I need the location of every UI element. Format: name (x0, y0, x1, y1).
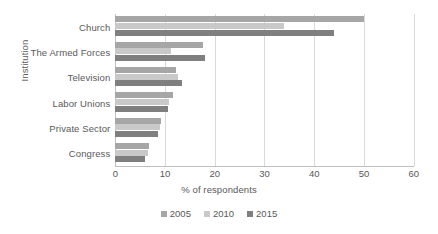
x-axis-ticks: 0102030405060 (115, 168, 413, 182)
y-axis-tick-label: The Armed Forces (31, 46, 111, 57)
bar-2005 (115, 118, 161, 124)
x-axis-tick-label: 50 (359, 168, 370, 179)
gridline-60 (414, 14, 415, 166)
x-axis-title: % of respondents (0, 184, 438, 195)
bar-chart: Institution ChurchThe Armed ForcesTelevi… (0, 0, 438, 234)
bar-2005 (115, 143, 149, 149)
bar-group (115, 42, 413, 63)
bar-2015 (115, 106, 167, 112)
bar-2015 (115, 30, 334, 36)
category-row: Congress (115, 141, 413, 166)
x-axis-tick-label: 30 (259, 168, 270, 179)
category-row: Television (115, 65, 413, 90)
bar-2005 (115, 92, 173, 98)
legend: 200520102015 (0, 208, 438, 219)
bar-2010 (115, 99, 168, 105)
bar-2015 (115, 131, 157, 137)
x-axis-tick-label: 20 (209, 168, 220, 179)
bar-2010 (115, 74, 178, 80)
bar-2005 (115, 42, 203, 48)
legend-swatch-icon (204, 211, 210, 217)
x-axis-tick-label: 40 (309, 168, 320, 179)
category-rows: ChurchThe Armed ForcesTelevisionLabor Un… (115, 14, 413, 166)
bar-group (115, 92, 413, 113)
x-axis-line (115, 166, 414, 167)
y-axis-tick-label: Congress (69, 148, 110, 159)
category-row: The Armed Forces (115, 39, 413, 64)
bar-2010 (115, 150, 147, 156)
legend-item-2015[interactable]: 2015 (247, 208, 277, 219)
legend-label: 2015 (256, 208, 277, 219)
x-axis-tick-label: 10 (160, 168, 171, 179)
bar-2010 (115, 124, 159, 130)
category-row: Private Sector (115, 115, 413, 140)
x-axis-tick-label: 0 (113, 168, 118, 179)
y-axis-tick-label: Church (79, 21, 110, 32)
bar-group (115, 16, 413, 37)
bar-2015 (115, 80, 182, 86)
bar-2015 (115, 55, 205, 61)
legend-item-2005[interactable]: 2005 (161, 208, 191, 219)
y-axis-tick-label: Private Sector (49, 122, 110, 133)
legend-item-2010[interactable]: 2010 (204, 208, 234, 219)
y-axis-tick-label: Television (68, 72, 111, 83)
category-row: Church (115, 14, 413, 39)
x-axis-tick-label: 60 (408, 168, 419, 179)
legend-swatch-icon (247, 211, 253, 217)
bar-2015 (115, 156, 145, 162)
bar-2010 (115, 48, 170, 54)
legend-label: 2010 (213, 208, 234, 219)
bar-group (115, 67, 413, 88)
category-row: Labor Unions (115, 90, 413, 115)
plot-area: ChurchThe Armed ForcesTelevisionLabor Un… (115, 14, 413, 166)
bar-group (115, 118, 413, 139)
legend-swatch-icon (161, 211, 167, 217)
bar-2005 (115, 16, 364, 22)
bar-group (115, 143, 413, 164)
bar-2010 (115, 23, 284, 29)
legend-label: 2005 (170, 208, 191, 219)
bar-2005 (115, 67, 176, 73)
y-axis-tick-label: Labor Unions (53, 97, 111, 108)
y-axis-title: Institution (19, 11, 30, 111)
